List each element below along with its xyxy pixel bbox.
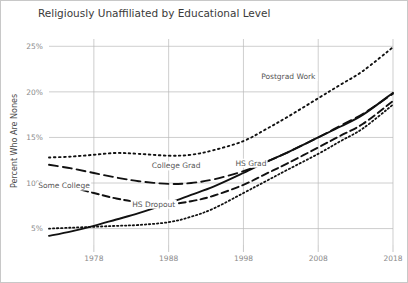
data-series-group: [49, 47, 393, 236]
x-tick-label: 2018: [383, 254, 402, 263]
x-tick-label: 1988: [159, 254, 178, 263]
y-axis-title: Percent Who Are Nones: [10, 94, 19, 188]
chart-container: 5%10%15%20%25% 19781988199820082018 Post…: [0, 0, 408, 283]
y-axis-tick-labels: 5%10%15%20%25%: [26, 42, 43, 233]
series-label: HS Dropout: [132, 200, 175, 209]
y-tick-label: 20%: [26, 88, 43, 97]
series-label: HS Grad: [235, 159, 266, 168]
chart-title: Religiously Unaffiliated by Educational …: [38, 7, 270, 19]
x-axis-tick-labels: 19781988199820082018: [84, 254, 402, 263]
series-inline-labels: Postgrad WorkCollege GradSome CollegeHS …: [37, 72, 318, 209]
series-line: [49, 94, 393, 184]
series-label: College Grad: [152, 161, 201, 170]
series-label: Postgrad Work: [261, 72, 316, 81]
x-axis-tickmarks: [94, 245, 393, 252]
x-tick-label: 2008: [309, 254, 328, 263]
y-tick-label: 15%: [26, 133, 43, 142]
line-chart: 5%10%15%20%25% 19781988199820082018 Post…: [1, 1, 408, 283]
x-tick-label: 1998: [234, 254, 253, 263]
series-line: [49, 101, 393, 204]
y-tick-label: 5%: [31, 224, 43, 233]
y-tick-label: 25%: [26, 42, 43, 51]
x-tick-label: 1978: [84, 254, 103, 263]
gridlines-horizontal: [49, 46, 393, 228]
series-line: [49, 93, 393, 236]
series-line: [49, 105, 393, 229]
series-label: Some College: [38, 181, 90, 190]
